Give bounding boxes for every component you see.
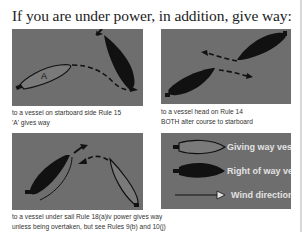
legend-label-right-of-way: Right of way vessel	[227, 166, 291, 176]
legend-label-giving-way: Giving way vessel	[227, 142, 291, 152]
caption-head-on: to a vessel head on Rule 14 BOTH alter c…	[161, 107, 253, 126]
caption-under-sail: to a vessel under sail Rule 18(a)iv powe…	[12, 212, 166, 231]
wind-direction-arrow-icon	[175, 191, 225, 199]
legend-label-wind: Wind direction	[231, 190, 291, 200]
giving-way-vessel-icon: A	[15, 65, 70, 90]
right-of-way-vessel-icon	[165, 68, 215, 97]
right-of-way-vessel-icon	[104, 35, 135, 89]
legend-panel: Giving way vessel Right of way vessel Wi…	[161, 133, 291, 209]
vessel-label: A	[41, 71, 47, 81]
page-title: If you are under power, in addition, giv…	[12, 7, 292, 25]
diagram-head-on	[161, 29, 291, 104]
course-arrow-icon	[74, 147, 82, 153]
course-dashed-icon	[84, 156, 108, 161]
diagram-starboard: A	[12, 29, 143, 106]
course-dashed-icon	[207, 53, 237, 61]
course-dashed-icon	[219, 70, 247, 76]
giving-way-vessel-icon	[110, 159, 139, 207]
right-of-way-vessel-icon	[237, 31, 287, 60]
diagram-under-sail	[12, 133, 143, 210]
caption-starboard: to a vessel on starboard side Rule 15 'A…	[12, 108, 121, 127]
right-of-way-vessel-icon	[173, 163, 225, 178]
giving-way-vessel-icon	[173, 140, 225, 153]
right-of-way-vessel-icon	[25, 155, 72, 200]
